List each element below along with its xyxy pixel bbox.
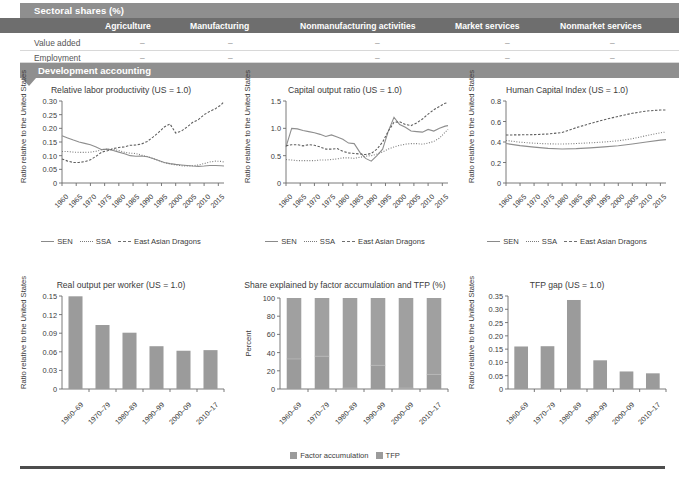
development-accounting-banner: Development accounting (20, 63, 679, 78)
plot-area (10, 280, 232, 445)
legend-label: SSA (320, 237, 335, 246)
bar (567, 300, 581, 389)
plot-area (10, 85, 232, 235)
legend-label: SSA (96, 237, 111, 246)
legend-line-swatch (487, 241, 500, 242)
bar-segment-factor-accumulation (427, 374, 442, 389)
legend-color-swatch (376, 452, 383, 459)
legend-line-swatch (41, 241, 54, 242)
legend-color-swatch (290, 452, 297, 459)
legend-label: SEN (281, 237, 297, 246)
plot-area (234, 85, 456, 235)
chart-legend: SENSSAEast Asian Dragons (458, 237, 676, 246)
bar-segment-factor-accumulation (371, 365, 386, 389)
bar (176, 351, 190, 389)
chart-real-output-per-worker: Real output per worker (US = 1.0)Ratio r… (10, 280, 232, 445)
chart-share-factor-accumulation-tfp: Share explained by factor accumulation a… (234, 280, 456, 445)
figure-page: Sectoral shares (%) AgricultureManufactu… (0, 0, 679, 477)
plot-area (458, 85, 676, 235)
sectoral-shares-banner: Sectoral shares (%) (20, 3, 679, 18)
legend-item[interactable]: SEN (265, 237, 297, 246)
table-cell-value: – (375, 38, 380, 48)
legend-line-swatch (118, 241, 131, 242)
legend-item[interactable]: SSA (304, 237, 335, 246)
table-cell-value: – (505, 38, 510, 48)
legend-label: SEN (57, 237, 73, 246)
legend-line-swatch (564, 241, 577, 242)
legend-item[interactable]: SSA (80, 237, 111, 246)
table-column-header: Agriculture (105, 18, 151, 33)
bar-segment-tfp (287, 298, 302, 359)
development-accounting-title: Development accounting (38, 65, 151, 76)
series-line-sen (62, 136, 224, 167)
bar (203, 350, 217, 389)
legend-label: East Asian Dragons (358, 237, 425, 246)
legend-item[interactable]: SEN (41, 237, 73, 246)
bar (514, 346, 528, 389)
table-column-header-row: AgricultureManufacturingNonmanufacturing… (0, 18, 679, 33)
chart-human-capital-index: Human Capital Index (US = 1.0)Ratio rela… (458, 85, 676, 235)
legend-label: TFP (386, 451, 400, 460)
table-column-header: Manufacturing (190, 18, 249, 33)
chart-legend: Factor accumulationTFP (234, 451, 456, 460)
bar (68, 296, 82, 389)
table-cell-value: – (140, 38, 145, 48)
series-line-east-asian-dragons (62, 102, 224, 163)
series-line-ssa (62, 149, 224, 166)
bar (620, 371, 634, 389)
chart-tfp-gap: TFP gap (US = 1.0)Ratio relative to the … (458, 280, 676, 445)
row-label: Value added (34, 38, 80, 48)
legend-line-swatch (304, 241, 317, 242)
bar-segment-tfp (399, 298, 414, 388)
bar (593, 360, 607, 389)
table-row: Value added ––––– (0, 36, 679, 51)
legend-line-swatch (342, 241, 355, 242)
bar-segment-factor-accumulation (287, 359, 302, 389)
series-line-east-asian-dragons (506, 110, 666, 135)
plot-area (458, 280, 676, 445)
legend-item[interactable]: East Asian Dragons (564, 237, 647, 246)
bar-segment-tfp (427, 298, 442, 374)
bar (95, 325, 109, 389)
legend-item[interactable]: East Asian Dragons (342, 237, 425, 246)
legend-item[interactable]: SSA (526, 237, 557, 246)
sectoral-shares-title: Sectoral shares (%) (34, 5, 124, 16)
plot-area (234, 280, 456, 445)
legend-item[interactable]: Factor accumulation (290, 451, 368, 460)
legend-label: East Asian Dragons (580, 237, 647, 246)
table-column-header: Nonmarket services (560, 18, 642, 33)
legend-line-swatch (265, 241, 278, 242)
table-column-header: Nonmanufacturing activities (300, 18, 416, 33)
series-line-sen (506, 140, 666, 149)
table-column-header: Market services (455, 18, 520, 33)
chart-legend: SENSSAEast Asian Dragons (234, 237, 456, 246)
bar-segment-tfp (315, 298, 330, 356)
bottom-rule (20, 466, 665, 469)
bar (149, 346, 163, 389)
bar (122, 333, 136, 389)
table-cell-value: – (610, 38, 615, 48)
legend-line-swatch (526, 241, 539, 242)
series-line-sen (286, 117, 448, 161)
bar (541, 346, 555, 389)
legend-item[interactable]: SEN (487, 237, 519, 246)
series-line-east-asian-dragons (286, 103, 448, 155)
chart-relative-labor-productivity: Relative labor productivity (US = 1.0)Ra… (10, 85, 232, 235)
chart-capital-output-ratio: Capital output ratio (US = 1.0)Ratio rel… (234, 85, 456, 235)
table-cell-value: – (228, 38, 233, 48)
bar-segment-tfp (371, 298, 386, 365)
chart-legend: SENSSAEast Asian Dragons (10, 237, 232, 246)
legend-item[interactable]: East Asian Dragons (118, 237, 201, 246)
legend-label: East Asian Dragons (134, 237, 201, 246)
bar-segment-factor-accumulation (315, 356, 330, 389)
legend-label: SEN (503, 237, 519, 246)
legend-label: Factor accumulation (300, 451, 368, 460)
bar (646, 373, 660, 389)
legend-line-swatch (80, 241, 93, 242)
legend-item[interactable]: TFP (376, 451, 400, 460)
bar-segment-tfp (343, 298, 358, 388)
legend-label: SSA (542, 237, 557, 246)
